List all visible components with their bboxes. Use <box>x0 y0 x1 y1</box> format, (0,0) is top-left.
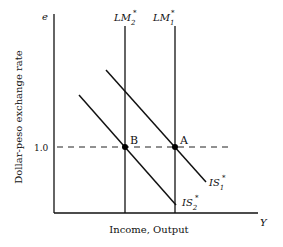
x-axis-title: Income, Output <box>109 224 188 235</box>
point-b-label: B <box>130 134 138 147</box>
is2-label-star: * <box>195 194 199 202</box>
y-axis-symbol: e <box>42 11 48 22</box>
point-a-label: A <box>179 134 189 147</box>
y-axis-title: Dollar-peso exchange rate <box>13 50 24 183</box>
lm1-label-star: * <box>171 9 175 17</box>
x-axis-symbol: Y <box>260 217 268 228</box>
lm2-label-star: * <box>133 9 137 17</box>
is1-label-star: * <box>222 174 226 182</box>
point-b <box>122 144 128 150</box>
y-tick-1: 1.0 <box>34 143 49 153</box>
is2-curve <box>79 95 176 205</box>
is-lm-chart: B A LM2 * LM1 * IS1 * IS2 * e Y 1.0 Inco… <box>0 0 283 247</box>
point-a <box>172 144 178 150</box>
is1-curve <box>106 70 206 182</box>
